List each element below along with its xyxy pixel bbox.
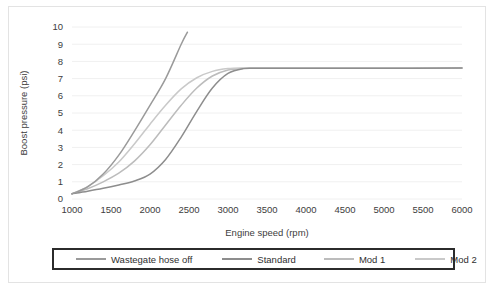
- x-tick-label: 6000: [451, 204, 472, 215]
- x-tick-label: 5000: [373, 204, 394, 215]
- y-tick-label: 7: [58, 73, 63, 84]
- legend-swatch-3: [415, 258, 445, 260]
- y-axis-title: Boost pressure (psi): [18, 70, 29, 155]
- legend-swatch-1: [222, 258, 252, 260]
- legend-swatch-2: [324, 258, 354, 260]
- line-chart: 1098765432101000150020002500300035004000…: [0, 0, 494, 289]
- y-tick-label: 6: [58, 90, 63, 101]
- chart-legend: Wastegate hose off Standard Mod 1 Mod 2: [52, 248, 455, 270]
- legend-label-2: Mod 1: [359, 254, 385, 265]
- x-tick-label: 5500: [412, 204, 433, 215]
- x-tick-label: 3500: [256, 204, 277, 215]
- x-tick-label: 3000: [217, 204, 238, 215]
- legend-swatch-0: [76, 258, 106, 260]
- series-line-2: [72, 68, 462, 194]
- y-tick-label: 4: [58, 125, 63, 136]
- legend-label-0: Wastegate hose off: [111, 254, 192, 265]
- series-line-3: [72, 68, 462, 194]
- legend-item-0[interactable]: Wastegate hose off: [76, 254, 192, 265]
- x-tick-label: 1000: [61, 204, 82, 215]
- y-tick-label: 10: [52, 21, 63, 32]
- x-tick-label: 4000: [295, 204, 316, 215]
- x-tick-label: 2000: [139, 204, 160, 215]
- legend-item-3[interactable]: Mod 2: [415, 254, 476, 265]
- x-tick-label: 1500: [100, 204, 121, 215]
- y-tick-label: 3: [58, 142, 63, 153]
- y-tick-label: 2: [58, 159, 63, 170]
- x-tick-label: 4500: [334, 204, 355, 215]
- x-tick-label: 2500: [178, 204, 199, 215]
- chart-figure: 1098765432101000150020002500300035004000…: [0, 0, 494, 289]
- y-tick-label: 9: [58, 39, 63, 50]
- y-tick-label: 0: [58, 193, 63, 204]
- legend-item-1[interactable]: Standard: [222, 254, 296, 265]
- legend-label-1: Standard: [257, 254, 296, 265]
- y-tick-label: 5: [58, 107, 63, 118]
- y-tick-label: 8: [58, 56, 63, 67]
- legend-label-3: Mod 2: [450, 254, 476, 265]
- legend-item-2[interactable]: Mod 1: [324, 254, 385, 265]
- y-tick-label: 1: [58, 176, 63, 187]
- series-line-1: [72, 68, 462, 194]
- x-axis-title: Engine speed (rpm): [225, 227, 308, 238]
